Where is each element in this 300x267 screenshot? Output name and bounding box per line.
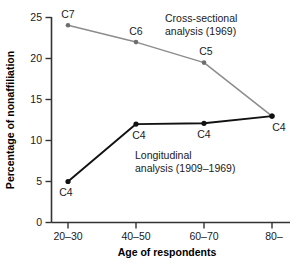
longitudinal-annotation: Longitudinal analysis (1909–1969): [135, 149, 235, 174]
cross-sectional-annotation: Cross-sectional analysis (1969): [165, 12, 237, 37]
axis-group: [52, 17, 291, 223]
line-chart: 0 5 10 15 20 25 20–30 40–50 60–70 80– Ag…: [0, 0, 300, 267]
cross-sectional-annotation-line1: Cross-sectional: [165, 12, 237, 24]
series-cross-sectional: [66, 23, 275, 119]
cross-sectional-point-20-30: [66, 23, 71, 28]
y-tick-label-5: 5: [36, 175, 42, 187]
longitudinal-point-40-50: [133, 122, 138, 127]
x-tick-label-40-50: 40–50: [121, 230, 150, 242]
cohort-label-c6: C6: [129, 25, 143, 37]
longitudinal-annotation-line1: Longitudinal: [135, 149, 192, 161]
y-tick-label-10: 10: [30, 134, 42, 146]
cohort-label-c4-20-30: C4: [59, 186, 73, 198]
y-tick-label-20: 20: [30, 52, 42, 64]
cohort-label-c7: C7: [61, 8, 75, 20]
cohort-label-c5: C5: [199, 45, 213, 57]
x-axis-title: Age of respondents: [118, 246, 217, 258]
x-tick-label-20-30: 20–30: [53, 230, 82, 242]
cohort-label-c4-80: C4: [272, 121, 286, 133]
longitudinal-annotation-line2: analysis (1909–1969): [135, 162, 235, 174]
cross-sectional-point-60-70: [202, 60, 207, 65]
x-tick-labels: 20–30 40–50 60–70 80–: [53, 230, 283, 242]
cohort-label-c4-60-70: C4: [197, 128, 211, 140]
x-tick-label-80: 80–: [265, 230, 283, 242]
longitudinal-point-80: [269, 114, 274, 119]
cross-sectional-line: [68, 25, 272, 116]
y-tick-labels: 0 5 10 15 20 25: [30, 11, 42, 228]
x-tick-label-60-70: 60–70: [189, 230, 218, 242]
chart-container: 0 5 10 15 20 25 20–30 40–50 60–70 80– Ag…: [0, 0, 300, 267]
y-axis-title: Percentage of nonaffiliation: [4, 51, 16, 189]
y-tick-label-25: 25: [30, 11, 42, 23]
y-tick-label-15: 15: [30, 93, 42, 105]
longitudinal-point-20-30: [65, 179, 70, 184]
y-tick-label-0: 0: [36, 216, 42, 228]
cross-sectional-point-40-50: [134, 40, 139, 45]
x-tick-marks: [68, 223, 272, 229]
longitudinal-point-60-70: [201, 121, 206, 126]
y-tick-marks: [46, 18, 52, 223]
cohort-label-c4-40-50: C4: [132, 129, 146, 141]
cross-sectional-annotation-line2: analysis (1969): [165, 25, 236, 37]
